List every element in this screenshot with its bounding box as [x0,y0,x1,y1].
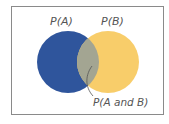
label-set-a: P(A) [50,15,73,28]
label-intersection: P(A and B) [93,96,148,108]
venn-diagram: P(A) P(B) P(A and B) [0,0,169,124]
label-set-b: P(B) [101,15,124,28]
